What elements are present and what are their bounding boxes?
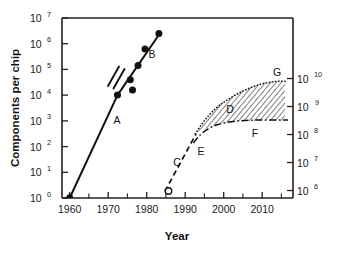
x-tick-label-1990: 1990 — [174, 203, 198, 215]
y-axis-right-ticks — [287, 79, 293, 191]
curve-label-a: A — [113, 114, 120, 126]
curve-label-f: F — [252, 127, 258, 139]
curve-label-g: G — [273, 66, 281, 78]
figure-container: 10 0 10 1 10 2 10 3 10 4 10 5 10 6 10 7 — [0, 0, 349, 253]
y-tick-exp-3: 3 — [47, 112, 51, 121]
data-point-open — [165, 188, 171, 194]
y-axis-title: Components per chip — [9, 49, 21, 167]
y-right-exp-10: 10 — [314, 70, 322, 79]
y-tick-label-1e0: 10 — [30, 192, 42, 204]
y-tick-label-1e1: 10 — [30, 166, 42, 178]
axis-break-mark — [108, 67, 125, 89]
x-tick-label-1980: 1980 — [135, 203, 159, 215]
data-point — [66, 194, 73, 201]
projection-uncertainty-band — [196, 82, 285, 132]
data-point — [127, 76, 134, 83]
y-right-exp-7: 7 — [314, 154, 318, 163]
x-axis-title: Year — [165, 230, 190, 242]
y-tick-label-1e2: 10 — [30, 141, 42, 153]
x-axis-labels: 1960 1970 1980 1990 2000 2010 — [58, 203, 274, 215]
y-tick-label-1e4: 10 — [30, 89, 42, 101]
y-tick-label-1e5: 10 — [30, 63, 42, 75]
y-tick-label-1e3: 10 — [30, 115, 42, 127]
trend-line-a — [70, 95, 118, 198]
x-axis-ticks — [70, 192, 282, 198]
y-tick-exp-1: 1 — [47, 164, 51, 173]
y-tick-exp-5: 5 — [47, 61, 51, 70]
curve-label-e: E — [197, 145, 204, 157]
data-point — [129, 86, 136, 93]
x-tick-label-2010: 2010 — [251, 203, 275, 215]
curve-label-d: D — [226, 103, 234, 115]
data-point — [142, 45, 149, 52]
y-tick-exp-4: 4 — [47, 87, 51, 96]
curve-label-c: C — [173, 156, 181, 168]
y-tick-label-1e7: 10 — [30, 12, 42, 24]
y-axis-left-ticks — [62, 18, 68, 198]
y-tick-label-1e6: 10 — [30, 38, 42, 50]
y-right-exp-8: 8 — [314, 126, 318, 135]
x-tick-label-1970: 1970 — [97, 203, 121, 215]
y-tick-exp-2: 2 — [47, 138, 51, 147]
semilog-chart: 10 0 10 1 10 2 10 3 10 4 10 5 10 6 10 7 — [0, 0, 349, 253]
data-point — [135, 62, 142, 69]
y-right-exp-6: 6 — [314, 182, 318, 191]
y-tick-exp-6: 6 — [47, 35, 51, 44]
data-point — [155, 30, 162, 37]
y-right-label-1e8: 10 — [297, 129, 309, 141]
y-axis-left-labels: 10 0 10 1 10 2 10 3 10 4 10 5 10 6 10 7 — [30, 10, 51, 205]
data-point — [114, 92, 121, 99]
y-right-label-1e9: 10 — [297, 101, 309, 113]
y-axis-right-labels: 10 6 10 7 10 8 10 9 10 10 — [297, 70, 322, 197]
curve-label-b: B — [148, 48, 155, 60]
y-tick-exp-0: 0 — [47, 190, 51, 199]
x-tick-label-1960: 1960 — [58, 203, 82, 215]
y-tick-exp-7: 7 — [47, 10, 51, 19]
plot-area — [66, 30, 288, 201]
y-right-label-1e6: 10 — [297, 185, 309, 197]
y-right-label-1e10: 10 — [297, 73, 309, 85]
x-tick-label-2000: 2000 — [212, 203, 236, 215]
y-right-exp-9: 9 — [315, 98, 319, 107]
y-right-label-1e7: 10 — [297, 157, 309, 169]
